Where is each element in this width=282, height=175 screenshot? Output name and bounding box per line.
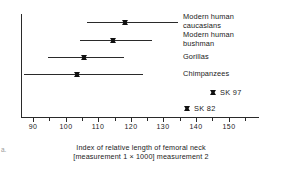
specimen-label-sk-82: SK 82 xyxy=(194,104,216,113)
figure-id-label: a. xyxy=(1,146,6,153)
x-ticklabel-150: 150 xyxy=(223,123,236,130)
range-line-group-1 xyxy=(80,40,152,41)
x-tick-115 xyxy=(115,117,116,121)
x-tick-125 xyxy=(147,117,148,121)
x-tick-155 xyxy=(245,117,246,121)
x-axis-line xyxy=(21,117,259,118)
group-label-modern-human-bushman: Modern human bushman xyxy=(183,31,234,48)
x-ticklabel-140: 140 xyxy=(190,123,203,130)
x-tick-120 xyxy=(131,117,132,122)
x-ticklabel-100: 100 xyxy=(60,123,73,130)
x-tick-90 xyxy=(33,117,34,122)
figure-femoral-neck-index: 90 100 110 120 130 140 150 Modern human … xyxy=(0,0,282,175)
y-axis-line xyxy=(21,14,22,117)
x-tick-105 xyxy=(82,117,83,121)
group-label-chimpanzees: Chimpanzees xyxy=(183,70,229,79)
x-tick-110 xyxy=(98,117,99,122)
x-ticklabel-130: 130 xyxy=(157,123,170,130)
specimen-marker-sk-97 xyxy=(210,90,216,95)
x-tick-135 xyxy=(180,117,181,121)
caption-line-1: Index of relative length of femoral neck xyxy=(0,143,282,152)
x-ticklabel-120: 120 xyxy=(125,123,138,130)
specimen-marker-sk-82 xyxy=(184,106,190,111)
mean-marker-group-1 xyxy=(110,38,116,43)
mean-marker-group-0 xyxy=(122,20,128,25)
x-tick-145 xyxy=(212,117,213,121)
x-tick-150 xyxy=(229,117,230,122)
group-label-modern-human-caucasians: Modern human caucasians xyxy=(183,13,234,30)
figure-caption: Index of relative length of femoral neck… xyxy=(0,143,282,162)
mean-marker-group-2 xyxy=(81,55,87,60)
range-line-group-3 xyxy=(24,74,143,75)
x-ticklabel-90: 90 xyxy=(29,123,38,130)
x-ticklabel-110: 110 xyxy=(92,123,104,130)
specimen-label-sk-97: SK 97 xyxy=(220,88,242,97)
group-label-gorillas: Gorillas xyxy=(183,53,209,62)
x-tick-95 xyxy=(49,117,50,121)
mean-marker-group-3 xyxy=(74,72,80,77)
x-tick-140 xyxy=(196,117,197,122)
caption-line-2: [measurement 1 × 1000] measurement 2 xyxy=(0,152,282,161)
range-line-group-0 xyxy=(87,22,178,23)
x-tick-130 xyxy=(163,117,164,122)
x-tick-100 xyxy=(66,117,67,122)
